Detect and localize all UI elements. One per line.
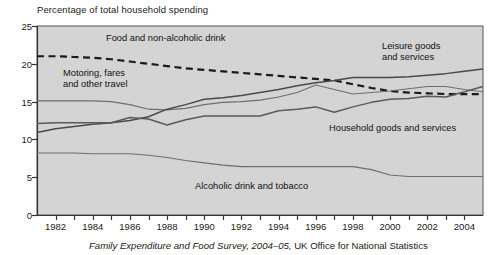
xtick-label-1982: 1982 [36,221,76,232]
xtick-label-1984: 1984 [73,221,113,232]
xtick-label-2000: 2000 [370,221,410,232]
source-note: Family Expenditure and Food Survey, 2004… [89,240,428,251]
series-annotation-motoring: Motoring, fares and other travel [63,68,128,89]
ytick-label-5: 5 [10,172,32,183]
series-annotation-leisure: Leisure goods and services [382,41,440,62]
series-annotation-food: Food and non-alcoholic drink [106,33,225,44]
xtick-label-1990: 1990 [184,221,224,232]
series-annotation-household: Household goods and services [329,123,456,134]
source-note-roman: UK Office for National Statistics [291,240,427,251]
y-axis-ticks [32,27,37,216]
series-annotation-alcohol: Alcoholic drink and tobacco [195,181,308,192]
y-axis-title: Percentage of total household spending [37,4,208,15]
xtick-label-1988: 1988 [147,221,187,232]
xtick-label-1986: 1986 [110,221,150,232]
ytick-label-15: 15 [10,97,32,108]
ytick-label-10: 10 [10,134,32,145]
series-annotation-leisure-line1: Leisure goods [382,41,440,52]
xtick-label-1994: 1994 [259,221,299,232]
ytick-label-20: 20 [10,59,32,70]
source-note-italic: Family Expenditure and Food Survey, 2004… [89,240,291,251]
xtick-label-1998: 1998 [333,221,373,232]
ytick-label-0: 0 [10,210,32,221]
xtick-label-2002: 2002 [407,221,447,232]
xtick-label-1992: 1992 [221,221,261,232]
chart-figure: Percentage of total household spending 0… [0,0,497,255]
series-annotation-motoring-line2: and other travel [63,79,128,90]
xtick-label-1996: 1996 [296,221,336,232]
series-annotation-leisure-line2: and services [382,52,440,63]
xtick-label-2004: 2004 [444,221,484,232]
series-annotation-motoring-line1: Motoring, fares [63,68,128,79]
ytick-label-25: 25 [10,21,32,32]
